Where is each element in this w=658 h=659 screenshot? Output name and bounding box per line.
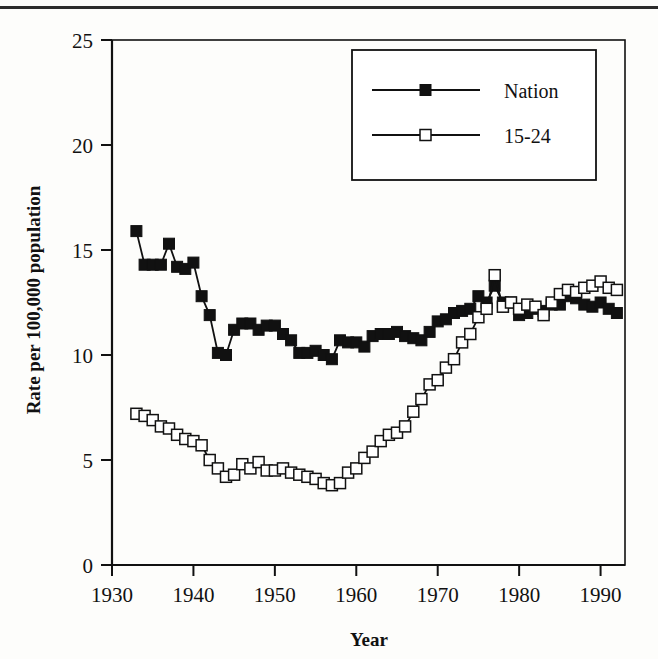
data-point bbox=[449, 354, 460, 365]
x-tick-label: 1970 bbox=[417, 583, 459, 607]
figure-panel: 05101520251930194019501960197019801990 N… bbox=[0, 0, 658, 659]
x-tick-label: 1990 bbox=[580, 583, 622, 607]
data-point bbox=[465, 329, 476, 340]
y-tick-label: 0 bbox=[83, 554, 94, 578]
x-tick-label: 1980 bbox=[498, 583, 540, 607]
data-series-group bbox=[131, 226, 623, 491]
series-nation bbox=[131, 226, 623, 365]
data-point bbox=[416, 394, 427, 405]
data-point bbox=[489, 270, 500, 281]
data-point bbox=[326, 354, 337, 365]
legend-box bbox=[352, 50, 596, 180]
data-point bbox=[351, 463, 362, 474]
x-tick-label: 1950 bbox=[254, 583, 296, 607]
data-point bbox=[335, 478, 346, 489]
data-point bbox=[229, 469, 240, 480]
data-point bbox=[611, 284, 622, 295]
legend-marker-open-square bbox=[420, 130, 431, 141]
x-tick-label: 1940 bbox=[172, 583, 214, 607]
y-axis-title: Rate per 100,000 population bbox=[23, 185, 44, 414]
data-point bbox=[131, 226, 142, 237]
data-point bbox=[432, 375, 443, 386]
line-chart: 05101520251930194019501960197019801990 N… bbox=[0, 0, 658, 659]
data-point bbox=[611, 308, 622, 319]
legend-marker-filled-square bbox=[420, 85, 431, 96]
data-point bbox=[286, 335, 297, 346]
chart-legend: Nation15-24 bbox=[352, 50, 596, 180]
x-tick-label: 1930 bbox=[91, 583, 133, 607]
y-tick-label: 10 bbox=[72, 344, 93, 368]
data-point bbox=[221, 350, 232, 361]
data-point bbox=[424, 326, 435, 337]
data-point bbox=[196, 291, 207, 302]
legend-label: Nation bbox=[504, 80, 558, 102]
data-point bbox=[538, 310, 549, 321]
data-point bbox=[164, 238, 175, 249]
y-tick-label: 25 bbox=[72, 29, 93, 53]
data-point bbox=[204, 310, 215, 321]
data-point bbox=[481, 303, 492, 314]
chart-canvas: 05101520251930194019501960197019801990 N… bbox=[0, 0, 658, 659]
data-point bbox=[188, 257, 199, 268]
data-point bbox=[196, 440, 207, 451]
data-point bbox=[155, 259, 166, 270]
x-tick-label: 1960 bbox=[335, 583, 377, 607]
y-tick-label: 5 bbox=[83, 449, 94, 473]
data-point bbox=[367, 446, 378, 457]
data-point bbox=[359, 341, 370, 352]
x-axis-title: Year bbox=[350, 629, 389, 650]
data-point bbox=[400, 421, 411, 432]
data-point bbox=[408, 406, 419, 417]
y-tick-label: 20 bbox=[72, 134, 93, 158]
legend-label: 15-24 bbox=[504, 125, 551, 147]
y-tick-label: 15 bbox=[72, 239, 93, 263]
